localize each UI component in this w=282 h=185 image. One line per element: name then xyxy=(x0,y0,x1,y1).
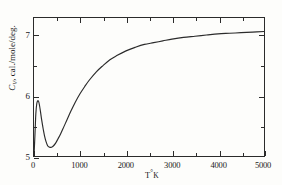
x-ticklabel: 5000 xyxy=(255,160,271,170)
y-ticklabel: 7 xyxy=(19,30,30,40)
x-ticklabel: 4000 xyxy=(210,160,226,170)
y-major-tick xyxy=(34,158,39,159)
x-ticklabel: 3000 xyxy=(164,160,180,170)
y-axis-units: , cal./mole/deg. xyxy=(7,25,17,80)
plot-area xyxy=(33,17,265,157)
x-axis-title: T°K xyxy=(145,168,159,180)
data-series-line xyxy=(34,32,264,156)
y-ticklabel: 6 xyxy=(19,91,30,101)
x-major-tick xyxy=(265,151,266,156)
y-axis-title: CV, cal./mole/deg. xyxy=(7,0,19,120)
y-axis-subscript: V xyxy=(11,81,18,85)
x-ticklabel: 0 xyxy=(31,160,35,170)
x-axis-title-unit: K xyxy=(153,171,159,180)
x-ticklabel: 2000 xyxy=(118,160,134,170)
x-ticklabel: 1000 xyxy=(71,160,87,170)
figure-container: 7 6 5 0 1000 2000 3000 4000 5000 T°K CV,… xyxy=(0,0,282,185)
y-axis-symbol: C xyxy=(7,85,17,91)
curve-svg xyxy=(34,18,264,156)
y-ticklabel: 5 xyxy=(19,152,30,162)
